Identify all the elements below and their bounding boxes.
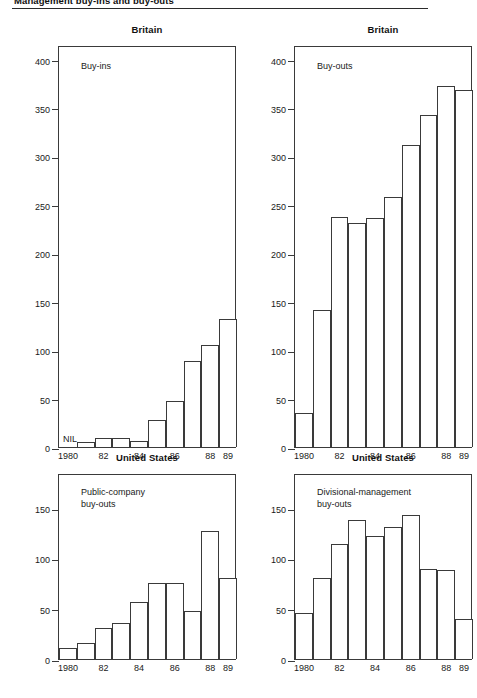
y-axis-tick-label: 350 (35, 105, 50, 115)
y-axis-tick-label: 50 (40, 606, 50, 616)
bar (402, 145, 420, 447)
series-annotation: Buy-ins (81, 61, 111, 73)
bar (219, 578, 237, 659)
chart-panel-us-public-company-buy-outs: United States05010015019808284868889Publ… (14, 452, 250, 684)
bar (184, 361, 202, 447)
nil-annotation: NIL (63, 434, 77, 444)
x-axis-tick-label: 88 (441, 663, 451, 673)
panel-title: Britain (58, 24, 236, 35)
plot-area: 05010015019808284868889Public-company bu… (58, 474, 236, 660)
y-axis-tick-label: 400 (35, 57, 50, 67)
y-axis-tick-label: 50 (276, 606, 286, 616)
y-axis-tick (288, 400, 295, 401)
y-axis-tick (288, 449, 295, 450)
x-axis-tick-label: 86 (170, 663, 180, 673)
y-axis-tick-label: 350 (271, 105, 286, 115)
y-axis-tick (52, 560, 59, 561)
bar (130, 441, 148, 447)
bar (420, 115, 438, 447)
y-axis-tick (52, 255, 59, 256)
y-axis-tick (288, 560, 295, 561)
x-axis-tick-label: 86 (406, 663, 416, 673)
y-axis-tick-label: 100 (271, 347, 286, 357)
y-axis-tick (52, 61, 59, 62)
y-axis-tick (288, 255, 295, 256)
bar (77, 442, 95, 447)
y-axis-tick (288, 109, 295, 110)
bar (59, 648, 77, 659)
y-axis-tick (52, 400, 59, 401)
bar (366, 536, 384, 659)
series-annotation: Buy-outs (317, 61, 353, 73)
chart-panel-britain-buy-ins: Britain050100150200250300350400198082848… (14, 24, 250, 472)
y-axis-tick-label: 50 (40, 396, 50, 406)
x-axis-tick-label: 82 (98, 663, 108, 673)
y-axis-tick (52, 449, 59, 450)
x-axis-tick-label: 88 (205, 663, 215, 673)
y-axis-tick-label: 100 (35, 555, 50, 565)
y-axis-tick (52, 206, 59, 207)
panel-title: United States (58, 452, 236, 463)
y-axis-tick (52, 610, 59, 611)
y-axis-tick-label: 250 (271, 202, 286, 212)
y-axis-tick-label: 100 (271, 555, 286, 565)
y-axis-tick-label: 50 (276, 396, 286, 406)
bar (148, 420, 166, 447)
bar (455, 90, 473, 447)
bar (366, 218, 384, 447)
bar (148, 583, 166, 659)
x-axis-tick-label: 1980 (294, 663, 314, 673)
y-axis-tick-label: 400 (271, 57, 286, 67)
bar (201, 531, 219, 659)
y-axis-tick (52, 303, 59, 304)
bar (295, 413, 313, 447)
y-axis-tick-label: 150 (271, 299, 286, 309)
x-axis-tick-label: 1980 (58, 663, 78, 673)
bar (384, 197, 402, 447)
y-axis-tick (288, 510, 295, 511)
figure-title: Management buy-ins and buy-outs (14, 0, 174, 6)
y-axis-tick-label: 200 (271, 250, 286, 260)
figure-header-rule (12, 8, 428, 9)
y-axis-tick-label: 300 (271, 153, 286, 163)
y-axis-tick-label: 300 (35, 153, 50, 163)
bar (437, 570, 455, 659)
y-axis-tick (288, 158, 295, 159)
bar (384, 527, 402, 659)
bar (331, 544, 349, 659)
bar (420, 569, 438, 659)
x-axis-tick-label: 82 (334, 663, 344, 673)
bar (112, 438, 130, 447)
bar (313, 578, 331, 659)
bar (348, 223, 366, 447)
bar (402, 515, 420, 659)
bar (219, 319, 237, 447)
y-axis-tick-label: 0 (45, 656, 50, 666)
bar (184, 611, 202, 659)
y-axis-tick-label: 100 (35, 347, 50, 357)
y-axis-tick-label: 200 (35, 250, 50, 260)
bar (295, 613, 313, 659)
y-axis-tick (288, 610, 295, 611)
panel-title: Britain (294, 24, 472, 35)
bar (437, 86, 455, 447)
bar (112, 623, 130, 659)
y-axis-tick (52, 510, 59, 511)
panel-title: United States (294, 452, 472, 463)
y-axis-tick (52, 109, 59, 110)
y-axis-tick (52, 352, 59, 353)
chart-panel-britain-buy-outs: Britain050100150200250300350400198082848… (250, 24, 477, 472)
bar (166, 401, 184, 447)
bar (95, 438, 113, 447)
y-axis-tick (288, 303, 295, 304)
figure-title-strip: Management buy-ins and buy-outs (0, 0, 440, 8)
y-axis-tick-label: 150 (271, 505, 286, 515)
bar (313, 310, 331, 447)
series-annotation: Divisional-management buy-outs (317, 487, 411, 510)
bar (348, 520, 366, 659)
bar (201, 345, 219, 447)
x-axis-tick-label: 89 (459, 663, 469, 673)
x-axis-tick-label: 89 (223, 663, 233, 673)
bar (77, 643, 95, 659)
y-axis-tick (52, 158, 59, 159)
